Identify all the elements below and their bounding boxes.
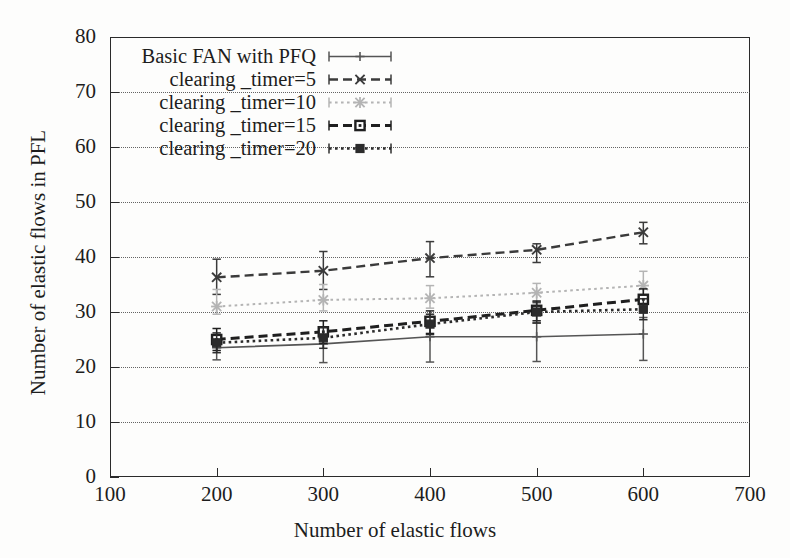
y-tick-mark xyxy=(110,37,119,38)
legend-item-label: clearing _timer=20 xyxy=(118,138,326,159)
legend-item-key xyxy=(326,138,394,159)
x-tick-label: 500 xyxy=(521,482,553,507)
figure-canvas: Number of elastic flows in PFL 010203040… xyxy=(0,0,790,558)
legend-item: clearing _timer=15 xyxy=(118,115,394,136)
x-tick-label: 400 xyxy=(414,482,446,507)
legend-item-key xyxy=(326,69,394,90)
x-tick-label: 200 xyxy=(201,482,233,507)
x-tick-mark xyxy=(217,468,218,477)
gridline-y xyxy=(110,312,750,313)
x-tick-mark xyxy=(323,468,324,477)
legend: Basic FAN with PFQclearing _timer=5clear… xyxy=(118,42,394,165)
legend-item-label: clearing _timer=15 xyxy=(118,115,326,136)
legend-item-label: Basic FAN with PFQ xyxy=(118,46,326,67)
legend-item: clearing _timer=10 xyxy=(118,92,394,113)
open-square-marker-dashed-line-icon xyxy=(326,115,394,136)
legend-item-key xyxy=(326,115,394,136)
gridline-y xyxy=(110,422,750,423)
x-tick-mark xyxy=(430,468,431,477)
y-tick-label: 80 xyxy=(0,24,96,49)
legend-item-key xyxy=(326,46,394,67)
x-tick-label: 300 xyxy=(308,482,340,507)
legend-item: clearing _timer=20 xyxy=(118,138,394,159)
y-tick-label: 60 xyxy=(0,134,96,159)
y-tick-mark xyxy=(110,312,119,313)
gridline-y xyxy=(110,202,750,203)
x-tick-label: 100 xyxy=(94,482,126,507)
y-tick-mark xyxy=(110,477,119,478)
data-point-star xyxy=(354,97,365,108)
legend-item-label: clearing _timer=5 xyxy=(118,69,326,90)
x-tick-label: 700 xyxy=(734,482,766,507)
data-point-open-square xyxy=(355,121,364,130)
y-tick-label: 70 xyxy=(0,79,96,104)
data-point-plus xyxy=(355,52,364,61)
legend-item: Basic FAN with PFQ xyxy=(118,46,394,67)
plus-marker-solid-line-icon xyxy=(326,46,394,67)
gridline-y xyxy=(110,367,750,368)
y-tick-label: 20 xyxy=(0,354,96,379)
y-tick-label: 50 xyxy=(0,189,96,214)
legend-item-label: clearing _timer=10 xyxy=(118,92,326,113)
y-tick-label: 30 xyxy=(0,299,96,324)
x-axis-title: Number of elastic flows xyxy=(0,518,790,543)
filled-square-marker-dotted-line-icon xyxy=(326,138,394,159)
legend-item-key xyxy=(326,92,394,113)
legend-item: clearing _timer=5 xyxy=(118,69,394,90)
star-marker-dotted-line-gray-icon xyxy=(326,92,394,113)
x-tick-mark xyxy=(537,468,538,477)
data-point-filled-square xyxy=(356,145,364,153)
gridline-y xyxy=(110,257,750,258)
y-tick-mark xyxy=(110,422,119,423)
y-tick-label: 40 xyxy=(0,244,96,269)
y-tick-label: 10 xyxy=(0,409,96,434)
y-tick-mark xyxy=(110,367,119,368)
x-tick-label: 600 xyxy=(628,482,660,507)
y-tick-label: 0 xyxy=(0,464,96,489)
y-tick-mark xyxy=(110,202,119,203)
cross-marker-dashed-line-icon xyxy=(326,69,394,90)
x-tick-mark xyxy=(643,468,644,477)
y-tick-mark xyxy=(110,257,119,258)
